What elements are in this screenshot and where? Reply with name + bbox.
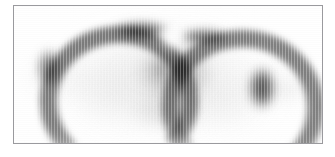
scan-feature-right-crescent (162, 30, 290, 143)
scan-feature-left-crescent-hotspot (112, 21, 172, 39)
scan-feature-right-wing (234, 61, 318, 111)
scan-feature-inferior-background (14, 132, 322, 143)
scan-feature-inferior-mass (130, 90, 202, 130)
scan-feature-superior-background (14, 6, 314, 20)
scan-feature-left-wing (16, 54, 96, 102)
scan-canvas (14, 6, 322, 143)
scan-feature-central-mass (134, 46, 214, 102)
scan-feature-left-midfield (60, 58, 152, 126)
scan-feature-right-midfield (186, 72, 270, 132)
scan-image-frame (13, 5, 323, 144)
scan-feature-right-wing-inner (266, 78, 306, 102)
scan-feature-central-mass-core (148, 52, 196, 84)
page-root (0, 0, 335, 157)
scan-feature-left-crescent (40, 26, 164, 142)
scan-grain-overlay (14, 6, 322, 143)
scan-feature-right-crescent-tail (248, 66, 276, 110)
scan-feature-body-core (64, 26, 264, 130)
scan-feature-body-ellipse (46, 20, 282, 143)
scan-feature-left-crescent-tail (37, 48, 61, 88)
scan-feature-right-crescent-hotspot (178, 29, 230, 45)
scan-dither-stripe-overlay (14, 6, 322, 143)
scan-feature-interhemispheric-gap (159, 20, 185, 52)
